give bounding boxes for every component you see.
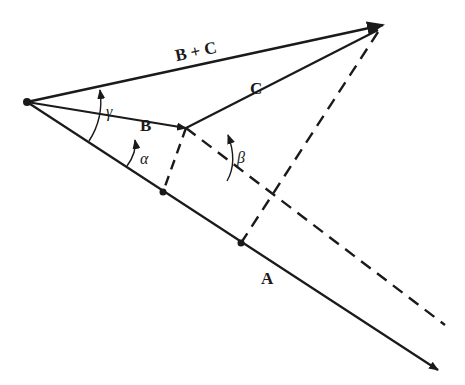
angle-alpha-arc: [127, 140, 135, 166]
vector-diagram: B + C C B A γ α β: [0, 0, 465, 385]
origin-point: [23, 98, 31, 106]
label-gamma: γ: [106, 104, 112, 120]
vector-b-plus-c: [27, 25, 383, 102]
projection-point-b: [160, 189, 167, 196]
label-alpha: α: [140, 151, 148, 167]
label-beta: β: [237, 150, 245, 166]
projection-point-sum: [238, 240, 245, 247]
projection-sum-dashed: [241, 32, 378, 243]
label-c: C: [250, 80, 262, 97]
diagram-svg: [0, 0, 465, 385]
vector-a: [27, 102, 438, 370]
angle-gamma-arc: [89, 90, 101, 141]
label-a: A: [261, 270, 273, 287]
label-b: B: [140, 117, 151, 134]
projection-b-dashed: [163, 128, 186, 192]
angle-beta-arc: [227, 135, 233, 181]
b-extension-dashed: [186, 128, 445, 325]
